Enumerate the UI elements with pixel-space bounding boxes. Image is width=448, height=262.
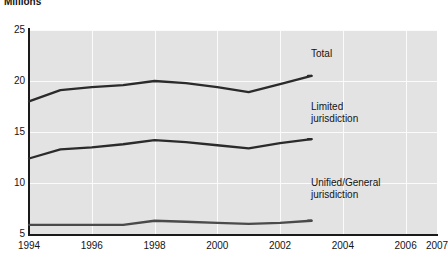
series-label-limited-line1: Limited (311, 101, 343, 112)
series-label-limited-jurisdiction: Limitedjurisdiction (311, 101, 358, 124)
series-line-total (29, 76, 311, 102)
series-line-unified-general-jurisdiction (29, 221, 311, 225)
series-label-unified-line1: Unified/General (311, 177, 380, 188)
series-label-total: Total (311, 48, 332, 60)
series-line-limited-jurisdiction (29, 139, 311, 158)
series-label-limited-line2: jurisdiction (311, 113, 358, 124)
series-label-unified-general-jurisdiction: Unified/Generaljurisdiction (311, 177, 380, 200)
series-label-unified-line2: jurisdiction (311, 189, 358, 200)
